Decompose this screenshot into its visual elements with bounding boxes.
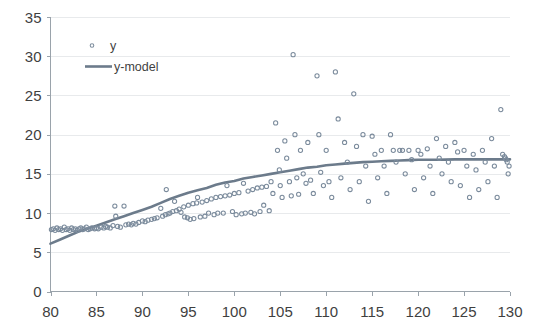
data-point <box>203 214 207 218</box>
axis-lines <box>50 17 510 292</box>
data-point <box>400 148 404 152</box>
data-point <box>306 140 310 144</box>
data-point <box>275 148 279 152</box>
x-tick-labels: 80859095100105110115120125130 <box>42 303 522 320</box>
data-point <box>321 184 325 188</box>
data-point <box>449 180 453 184</box>
data-point <box>330 195 334 199</box>
x-tick-label-115: 115 <box>360 303 384 320</box>
data-point <box>388 133 392 137</box>
data-point <box>267 209 271 213</box>
data-point <box>315 74 319 78</box>
data-point <box>444 144 448 148</box>
x-tick-label-80: 80 <box>42 303 59 320</box>
data-point <box>228 193 232 197</box>
data-point <box>298 148 302 152</box>
y-tick-label-0: 0 <box>33 283 41 300</box>
data-point <box>218 195 222 199</box>
data-point <box>262 203 266 207</box>
data-point <box>285 156 289 160</box>
data-point <box>198 215 202 219</box>
x-tick-label-120: 120 <box>406 303 431 320</box>
data-point <box>364 164 368 168</box>
legend-marker-y <box>90 44 94 48</box>
data-point <box>195 195 199 199</box>
data-point <box>434 136 438 140</box>
data-point <box>237 191 241 195</box>
data-point <box>366 199 370 203</box>
y-scatter-series <box>49 53 511 233</box>
data-point <box>182 205 186 209</box>
data-point <box>431 191 435 195</box>
y-tick-label-20: 20 <box>25 126 42 143</box>
data-point <box>382 164 386 168</box>
data-point <box>467 195 471 199</box>
data-point <box>311 191 315 195</box>
data-point <box>425 147 429 151</box>
data-point <box>122 204 126 208</box>
x-tick-label-95: 95 <box>180 303 197 320</box>
data-point <box>205 198 209 202</box>
data-point <box>428 164 432 168</box>
data-point <box>477 187 481 191</box>
data-point <box>264 184 268 188</box>
y-tick-label-30: 30 <box>25 48 42 65</box>
data-point <box>118 225 122 229</box>
data-point <box>407 148 411 152</box>
y-tick-labels: 05101520253035 <box>25 9 42 301</box>
data-point <box>471 152 475 156</box>
data-point <box>274 121 278 125</box>
legend-label-y: y <box>110 39 117 53</box>
data-point <box>333 70 337 74</box>
data-point <box>304 181 308 185</box>
data-point <box>280 195 284 199</box>
data-point <box>327 180 331 184</box>
y-tick-label-5: 5 <box>33 244 41 261</box>
x-tick-label-110: 110 <box>314 303 338 320</box>
data-point <box>379 148 383 152</box>
data-point <box>456 150 460 154</box>
scatter-chart: 05101520253035 8085909510010511011512012… <box>0 0 535 335</box>
data-point <box>225 184 229 188</box>
data-point <box>269 180 273 184</box>
y-tick-label-10: 10 <box>25 205 42 222</box>
data-point <box>499 107 503 111</box>
data-point <box>317 133 321 137</box>
data-point <box>495 195 499 199</box>
data-point <box>339 176 343 180</box>
data-point <box>336 117 340 121</box>
data-point <box>287 180 291 184</box>
data-point <box>385 191 389 195</box>
data-point <box>200 200 204 204</box>
data-point <box>255 186 259 190</box>
data-point <box>155 216 159 220</box>
data-point <box>164 187 168 191</box>
data-point <box>357 180 361 184</box>
data-point <box>289 194 293 198</box>
chart-container: 05101520253035 8085909510010511011512012… <box>0 0 535 335</box>
data-point <box>209 197 213 201</box>
x-tick-label-125: 125 <box>452 303 477 320</box>
data-point <box>462 148 466 152</box>
data-point <box>376 176 380 180</box>
legend-label-y-model: y-model <box>114 60 158 74</box>
data-point <box>232 191 236 195</box>
data-point <box>301 172 305 176</box>
data-point <box>271 191 275 195</box>
x-tick-label-90: 90 <box>134 303 151 320</box>
data-point <box>295 176 299 180</box>
y-tick-label-35: 35 <box>25 9 42 26</box>
data-point <box>230 209 234 213</box>
data-point <box>419 152 423 156</box>
data-point <box>412 187 416 191</box>
data-point <box>391 148 395 152</box>
x-tick-label-100: 100 <box>222 303 247 320</box>
data-point <box>506 172 510 176</box>
data-point <box>354 144 358 148</box>
data-point <box>251 187 255 191</box>
data-point <box>486 180 490 184</box>
x-tick-label-130: 130 <box>497 303 522 320</box>
data-point <box>186 203 190 207</box>
data-point <box>480 148 484 152</box>
data-point <box>453 140 457 144</box>
